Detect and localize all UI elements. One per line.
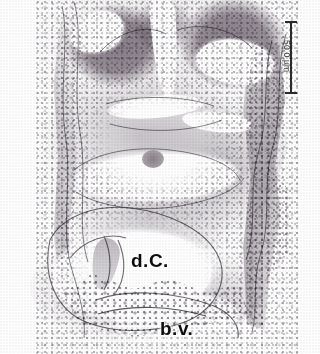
scale-bar-cap-bottom <box>285 92 297 94</box>
scale-bar-label: 50.0 µm <box>282 40 292 72</box>
annotation-dorsal-cavity: d.C. <box>131 250 169 272</box>
scale-bar: 50.0 µm <box>276 18 320 100</box>
micrograph-figure: 50.0 µm d.C. b.v. <box>0 0 320 354</box>
membrane-outline-layer <box>0 0 320 354</box>
microscope-field <box>0 0 320 354</box>
annotation-blood-vessel: b.v. <box>160 318 193 340</box>
